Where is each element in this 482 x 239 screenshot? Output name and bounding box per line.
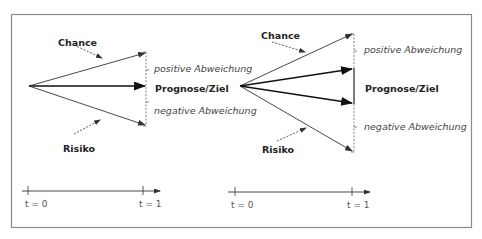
risiko-label: Risiko [63, 143, 96, 154]
chance-pointer [272, 42, 305, 52]
target-label: Prognose/Ziel [155, 83, 229, 94]
risiko-pointer [74, 120, 100, 134]
target-lower-arrow [240, 86, 352, 103]
right-diagram: Chance Risiko positive Abweichung Progno… [228, 30, 467, 210]
target-upper-arrow [240, 69, 352, 86]
diagram-canvas: Chance Risiko positive Abweichung Progno… [0, 0, 482, 239]
upper-arrow [29, 53, 145, 86]
target-label: Prognose/Ziel [365, 83, 439, 94]
risiko-label: Risiko [262, 144, 295, 155]
t1-label: t = 1 [139, 199, 162, 209]
negative-deviation-label: negative Abweichung [364, 121, 467, 132]
chance-label: Chance [261, 30, 300, 41]
positive-deviation-label: positive Abweichung [153, 63, 252, 74]
negative-deviation-label: negative Abweichung [154, 105, 257, 116]
left-diagram: Chance Risiko positive Abweichung Progno… [22, 37, 257, 209]
lower-arrow [29, 86, 145, 125]
lower-arrow [240, 86, 352, 151]
risiko-pointer [277, 128, 306, 141]
chance-label: Chance [58, 37, 97, 48]
t0-label: t = 0 [231, 200, 254, 210]
t1-label: t = 1 [347, 200, 370, 210]
positive-deviation-label: positive Abweichung [363, 44, 462, 55]
t0-label: t = 0 [25, 199, 48, 209]
